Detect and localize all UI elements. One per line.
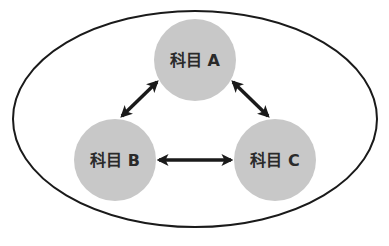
node-label-a: 科目 A bbox=[170, 51, 221, 70]
node-label-b: 科目 B bbox=[90, 151, 140, 170]
node-subject-b: 科目 B bbox=[74, 119, 156, 201]
arrow-a-b bbox=[122, 82, 157, 116]
node-subject-a: 科目 A bbox=[154, 19, 236, 101]
arrow-a-c bbox=[233, 82, 268, 116]
node-label-c: 科目 C bbox=[250, 151, 299, 170]
subject-relationship-diagram: 科目 A 科目 B 科目 C bbox=[0, 0, 389, 246]
node-subject-c: 科目 C bbox=[234, 119, 316, 201]
